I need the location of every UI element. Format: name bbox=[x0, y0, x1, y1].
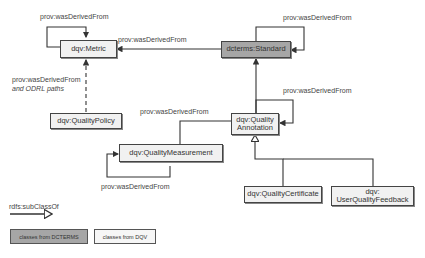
node-standard-label: dcterms:Standard bbox=[226, 45, 285, 54]
node-quality-policy[interactable]: dqv:QualityPolicy bbox=[50, 113, 122, 129]
legend-subclass-label: rdfs:subClassOf bbox=[9, 203, 59, 211]
node-quality-certificate-label: dqv:QualityCertificate bbox=[247, 190, 318, 199]
node-quality-measurement-label: dqv:QualityMeasurement bbox=[129, 149, 212, 158]
legend-dqv: classes from DQV bbox=[94, 229, 156, 244]
node-quality-measurement[interactable]: dqv:QualityMeasurement bbox=[119, 144, 223, 162]
node-quality-policy-label: dqv:QualityPolicy bbox=[57, 117, 115, 126]
node-user-quality-feedback-line2: UserQualityFeedback bbox=[336, 196, 408, 205]
node-metric[interactable]: dqv:Metric bbox=[60, 40, 117, 58]
label-standard-metric: prov:wasDerivedFrom bbox=[118, 36, 186, 44]
node-quality-annotation-line2: Annotation bbox=[237, 124, 273, 133]
label-metric-self: prov:wasDerivedFrom bbox=[40, 13, 108, 21]
label-annotation-self: prov:wasDerivedFrom bbox=[283, 87, 351, 95]
legend-dcterms-label: classes from DCTERMS bbox=[19, 234, 79, 240]
label-policy-metric-2-text: and ODRL paths bbox=[12, 85, 64, 92]
node-quality-annotation[interactable]: dqv:QualityAnnotation bbox=[231, 113, 279, 135]
legend-dqv-label: classes from DQV bbox=[103, 234, 147, 240]
label-policy-metric-2: and ODRL paths bbox=[12, 85, 64, 93]
label-standard-self: prov:wasDerivedFrom bbox=[283, 14, 351, 22]
edge-feedback-annotation bbox=[283, 159, 373, 186]
label-policy-metric-1: prov:wasDerivedFrom bbox=[12, 76, 80, 84]
label-measurement-self: prov:wasDerivedFrom bbox=[101, 183, 169, 191]
node-quality-certificate[interactable]: dqv:QualityCertificate bbox=[244, 186, 322, 203]
node-metric-label: dqv:Metric bbox=[71, 45, 106, 54]
label-annotation-measurement: prov:wasDerivedFrom bbox=[140, 108, 208, 116]
legend-dcterms: classes from DCTERMS bbox=[10, 229, 88, 244]
node-user-quality-feedback[interactable]: dqv:UserQualityFeedback bbox=[331, 186, 414, 206]
diagram-edges bbox=[0, 0, 425, 258]
edge-certificate-annotation bbox=[255, 135, 283, 186]
node-standard[interactable]: dcterms:Standard bbox=[221, 41, 291, 58]
